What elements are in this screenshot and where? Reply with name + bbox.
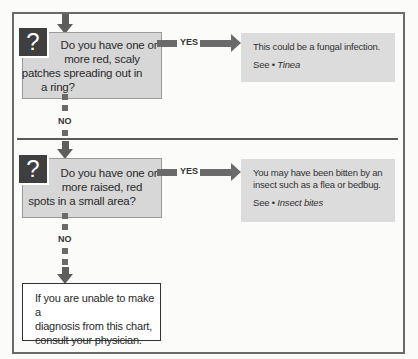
answer-text-1: This could be a fungal infection. (253, 41, 385, 53)
question-text-1: Do you have one or more red, scaly patch… (42, 38, 162, 94)
no-connector-2-dash (62, 248, 68, 254)
no-connector-2-dash (62, 259, 68, 265)
see-reference-2: See • Insect bites (253, 197, 385, 209)
section-divider (17, 138, 398, 140)
answer-box-2: You may have been bitten by an insect su… (241, 159, 395, 222)
no-label-2: NO (58, 234, 72, 244)
no-connector-1-dash (62, 94, 68, 100)
answer-box-1: This could be a fungal infection. See • … (241, 33, 395, 82)
answer-text-2: You may have been bitten by an insect su… (253, 167, 385, 191)
see-link-tinea[interactable]: Tinea (277, 59, 300, 70)
arrow-right-icon (231, 163, 241, 181)
no-connector-1-dash (62, 105, 68, 111)
no-connector-2-dash (62, 224, 68, 230)
see-reference-1: See • Tinea (253, 59, 385, 71)
yes-connector-2-right (200, 169, 232, 176)
question-text-2: Do you have one or more raised, red spot… (42, 166, 162, 208)
no-label-1: NO (58, 116, 72, 126)
yes-connector-2-left (157, 169, 177, 176)
no-connector-1-dash (62, 130, 68, 136)
yes-connector-1-right (200, 40, 232, 47)
arrow-right-icon (231, 34, 241, 52)
yes-label-1: YES (180, 37, 198, 47)
yes-connector-1-left (157, 40, 177, 47)
yes-label-2: YES (180, 166, 198, 176)
no-connector-2-dash (62, 213, 68, 219)
see-link-insect-bites[interactable]: Insect bites (277, 197, 323, 208)
final-advice-box: If you are unable to make a diagnosis fr… (22, 283, 161, 341)
